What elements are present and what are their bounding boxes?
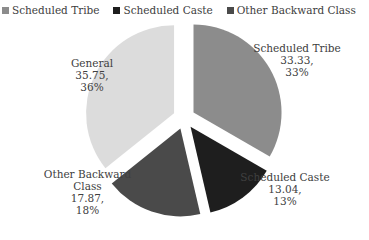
slice-label-value: 35.75,	[52, 69, 132, 81]
slice-label-percent: 36%	[52, 81, 132, 93]
slice-label-name: Scheduled Tribe	[237, 42, 357, 54]
label-scheduled-tribe: Scheduled Tribe 33.33, 33%	[237, 42, 357, 78]
slice-label-value: 17.87,	[40, 192, 135, 204]
slice-label-percent: 33%	[237, 66, 357, 78]
slice-label-percent: 18%	[40, 204, 135, 216]
slice-label-value: 33.33,	[237, 54, 357, 66]
label-other-backward-class: Other Backward Class 17.87, 18%	[40, 168, 135, 216]
slice-label-name: Other Backward	[40, 168, 135, 180]
slice-label-value: 13.04,	[230, 183, 340, 195]
label-general: General 35.75, 36%	[52, 57, 132, 93]
slice-label-name: Scheduled Caste	[230, 171, 340, 183]
slice-label-percent: 13%	[230, 195, 340, 207]
label-scheduled-caste: Scheduled Caste 13.04, 13%	[230, 171, 340, 207]
slice-label-name-line2: Class	[40, 180, 135, 192]
slice-label-name: General	[52, 57, 132, 69]
